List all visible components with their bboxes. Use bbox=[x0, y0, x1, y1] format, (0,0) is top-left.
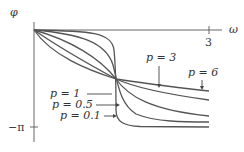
label-p-0.1: p = 0.1 bbox=[60, 109, 101, 122]
x-tick-label: 3 bbox=[205, 36, 212, 49]
arrowhead-p-0.5 bbox=[116, 103, 120, 107]
y-axis-label: φ bbox=[10, 6, 18, 19]
arrowhead-p-6 bbox=[200, 86, 204, 90]
label-p-3: p = 3 bbox=[146, 51, 176, 64]
y-tick-label: −π bbox=[8, 121, 24, 134]
phase-chart: φ ω 3 −π p = 3 p = 6 p = 1 p = 0.5 p = 0… bbox=[0, 0, 244, 152]
label-p-6: p = 6 bbox=[188, 66, 218, 79]
arrowhead-p-3 bbox=[157, 84, 161, 88]
x-axis-label: ω bbox=[229, 23, 238, 36]
